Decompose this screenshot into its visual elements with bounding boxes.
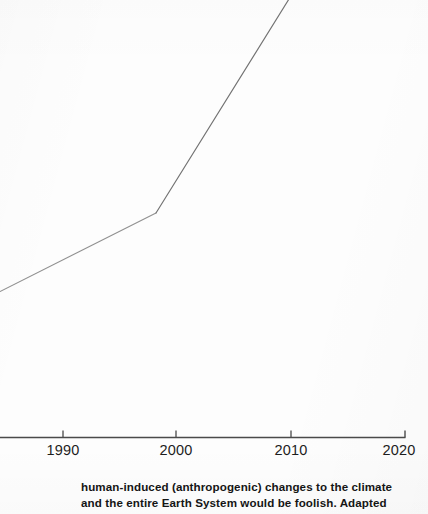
caption-line-2: and the entire Earth System would be foo… [81, 495, 381, 511]
caption-line-1: human-induced (anthropogenic) changes to… [81, 479, 381, 495]
series-trend [0, 0, 289, 292]
x-tick-label-1990: 1990 [46, 443, 79, 459]
x-axis-ticks [63, 431, 405, 438]
figure-caption: human-induced (anthropogenic) changes to… [81, 479, 381, 510]
chart-plot-svg [0, 0, 428, 470]
trend-line-segment-upper [156, 0, 289, 213]
x-tick-label-2010: 2010 [274, 443, 307, 459]
x-tick-label-2000: 2000 [159, 443, 192, 459]
x-tick-label-2020: 2020 [382, 443, 415, 459]
line-chart: 1990 2000 2010 2020 [0, 0, 428, 470]
trend-line-segment-lower [0, 213, 156, 292]
scanned-page: 1990 2000 2010 2020 human-induced (anthr… [0, 0, 428, 514]
